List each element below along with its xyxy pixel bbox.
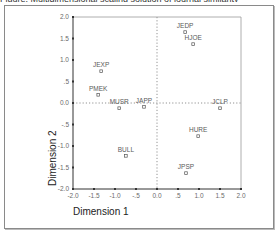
y-tick-mark	[72, 145, 74, 147]
data-point-hure: HURE	[189, 126, 208, 137]
point-label: JEXP	[93, 61, 109, 68]
data-point-jpsp: JPSP	[178, 163, 194, 174]
x-tick-mark	[219, 188, 221, 190]
square-marker-icon	[197, 135, 200, 138]
x-tick-mark	[114, 188, 116, 190]
y-tick-label: -.5	[61, 121, 69, 128]
data-point-japp: JAPP	[136, 97, 152, 108]
square-marker-icon	[118, 107, 121, 110]
x-tick-mark	[240, 188, 242, 190]
data-point-pmek: PMEK	[89, 85, 108, 96]
square-marker-icon	[125, 155, 128, 158]
data-point-bull: BULL	[118, 146, 135, 157]
data-point-jexp: JEXP	[93, 61, 109, 72]
y-tick-label: 1.0	[60, 56, 69, 63]
square-marker-icon	[184, 31, 187, 34]
y-tick-mark	[72, 81, 74, 83]
y-tick-label: -1.5	[58, 164, 70, 171]
point-label: PMEK	[89, 85, 108, 92]
point-label: JCLP	[212, 98, 228, 105]
y-tick-mark	[72, 38, 74, 40]
x-tick-mark	[93, 188, 95, 190]
y-tick-mark	[72, 16, 74, 18]
point-label: HURE	[189, 126, 208, 133]
square-marker-icon	[100, 70, 103, 73]
data-point-jedp: JEDP	[177, 22, 194, 33]
y-tick-mark	[72, 59, 74, 61]
point-label: MUSR	[110, 98, 129, 105]
point-label: JPSP	[178, 163, 194, 170]
square-marker-icon	[192, 43, 195, 46]
x-axis-ticks: -2.0-1.5-1.0-.50.0.51.01.52.0	[67, 188, 245, 199]
x-tick-label: -1.5	[88, 192, 100, 199]
square-marker-icon	[185, 172, 188, 175]
x-tick-mark	[198, 188, 200, 190]
y-tick-label: -2.0	[58, 185, 70, 192]
point-label: JEDP	[177, 22, 194, 29]
point-label: JAPP	[136, 97, 152, 104]
scatter-chart: -2.0-1.5-1.0-.50.0.51.01.52.0 2.01.51.0.…	[0, 0, 278, 232]
point-label: BULL	[118, 146, 135, 153]
data-point-jclp: JCLP	[212, 98, 228, 109]
x-tick-mark	[135, 188, 137, 190]
x-tick-label: 1.5	[215, 192, 224, 199]
y-tick-label: 1.5	[60, 35, 69, 42]
x-tick-mark	[156, 188, 158, 190]
square-marker-icon	[143, 106, 146, 109]
point-label: HJOE	[184, 34, 202, 41]
data-point-musr: MUSR	[110, 98, 129, 109]
data-points: JEDPHJOEJEXPPMEKMUSRJAPPJCLPHUREBULLJPSP	[89, 22, 228, 174]
y-axis-title: Dimension 2	[47, 130, 58, 186]
x-tick-label: 0.0	[152, 192, 161, 199]
y-tick-mark	[72, 102, 74, 104]
x-tick-label: .5	[175, 192, 181, 199]
x-tick-label: -1.0	[109, 192, 121, 199]
data-point-hjoe: HJOE	[184, 34, 202, 45]
y-axis-ticks: 2.01.51.0.50.0-.5-1.0-1.5-2.0	[58, 13, 74, 192]
x-tick-label: 2.0	[236, 192, 245, 199]
x-axis-title: Dimension 1	[73, 206, 129, 217]
x-tick-mark	[177, 188, 179, 190]
y-tick-label: 2.0	[60, 13, 69, 20]
y-tick-label: .5	[64, 78, 70, 85]
square-marker-icon	[97, 94, 100, 97]
square-marker-icon	[219, 107, 222, 110]
y-tick-mark	[72, 188, 74, 190]
x-tick-label: -.5	[132, 192, 140, 199]
y-tick-mark	[72, 124, 74, 126]
y-tick-label: -1.0	[58, 142, 70, 149]
y-tick-label: 0.0	[60, 99, 69, 106]
x-tick-label: -2.0	[67, 192, 79, 199]
y-tick-mark	[72, 167, 74, 169]
x-tick-label: 1.0	[194, 192, 203, 199]
